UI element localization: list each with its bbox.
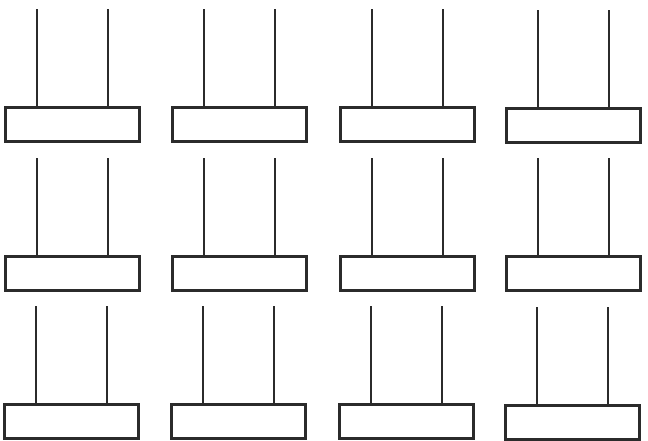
abacus-frame xyxy=(171,9,308,142)
abacus-rod-ones xyxy=(442,9,444,107)
abacus-base-answer-box xyxy=(171,106,308,143)
abacus-frame xyxy=(4,158,141,291)
abacus-rod-ones xyxy=(107,158,109,256)
abacus-rod-tens xyxy=(36,9,38,107)
abacus-rod-ones xyxy=(607,307,609,405)
abacus-frame xyxy=(170,306,307,439)
abacus-frame xyxy=(3,306,140,439)
abacus-base-answer-box xyxy=(171,255,308,292)
abacus-rod-tens xyxy=(36,158,38,256)
abacus-base-answer-box xyxy=(3,403,140,440)
abacus-base-answer-box xyxy=(338,403,475,440)
abacus-rod-tens xyxy=(370,306,372,404)
abacus-rod-tens xyxy=(536,307,538,405)
abacus-rod-tens xyxy=(203,158,205,256)
abacus-rod-tens xyxy=(203,9,205,107)
abacus-base-answer-box xyxy=(505,255,642,292)
abacus-frame xyxy=(4,9,141,142)
abacus-base-answer-box xyxy=(505,107,642,144)
abacus-base-answer-box xyxy=(170,403,307,440)
abacus-frame xyxy=(505,10,642,143)
abacus-frame xyxy=(505,158,642,291)
abacus-rod-ones xyxy=(274,9,276,107)
abacus-rod-tens xyxy=(537,158,539,256)
abacus-rod-ones xyxy=(107,9,109,107)
abacus-rod-ones xyxy=(608,158,610,256)
abacus-rod-tens xyxy=(537,10,539,108)
abacus-rod-tens xyxy=(35,306,37,404)
abacus-rod-ones xyxy=(273,306,275,404)
abacus-rod-ones xyxy=(106,306,108,404)
abacus-frame xyxy=(171,158,308,291)
abacus-rod-tens xyxy=(371,158,373,256)
abacus-frame xyxy=(338,306,475,439)
abacus-base-answer-box xyxy=(339,255,476,292)
abacus-base-answer-box xyxy=(339,106,476,143)
abacus-frame xyxy=(339,158,476,291)
abacus-base-answer-box xyxy=(504,404,641,441)
abacus-rod-ones xyxy=(274,158,276,256)
abacus-rod-ones xyxy=(608,10,610,108)
abacus-rod-tens xyxy=(202,306,204,404)
abacus-frame xyxy=(339,9,476,142)
abacus-base-answer-box xyxy=(4,106,141,143)
abacus-base-answer-box xyxy=(4,255,141,292)
abacus-rod-tens xyxy=(371,9,373,107)
abacus-frame xyxy=(504,307,641,440)
abacus-rod-ones xyxy=(441,306,443,404)
abacus-rod-ones xyxy=(442,158,444,256)
